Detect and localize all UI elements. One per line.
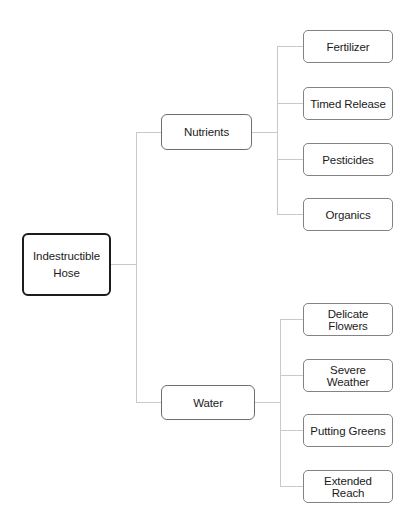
node-leaf-delicate-flowers[interactable]: Delicate Flowers (303, 303, 393, 336)
connector-bus-to-putting-greens (280, 430, 303, 431)
node-branch-nutrients[interactable]: Nutrients (161, 114, 252, 150)
node-leaf-putting-greens-label: Putting Greens (304, 425, 392, 437)
node-leaf-timed-release[interactable]: Timed Release (303, 87, 393, 120)
node-leaf-delicate-flowers-label: Delicate Flowers (304, 308, 392, 332)
node-leaf-severe-weather[interactable]: Severe Weather (303, 359, 393, 392)
connector-nutrients-bus-vertical (277, 46, 278, 214)
node-leaf-timed-release-label: Timed Release (304, 98, 392, 110)
connector-bus-to-timed-release (277, 103, 303, 104)
node-branch-water-label: Water (162, 397, 254, 409)
node-leaf-putting-greens[interactable]: Putting Greens (303, 414, 393, 447)
node-root-indestructible-hose[interactable]: Indestructible Hose (22, 233, 111, 296)
connector-bus-to-extended-reach (280, 486, 303, 487)
node-branch-water[interactable]: Water (161, 385, 255, 420)
node-root-label: Indestructible Hose (24, 248, 109, 282)
connector-trunk-to-water (136, 402, 161, 403)
node-leaf-pesticides[interactable]: Pesticides (303, 143, 393, 176)
connector-bus-to-fertilizer (277, 46, 303, 47)
connector-bus-to-pesticides (277, 159, 303, 160)
node-root-label-line1: Indestructible (33, 250, 100, 262)
connector-water-bus-vertical (280, 319, 281, 486)
connector-root-to-trunk (110, 264, 136, 265)
connector-nutrients-to-bus (252, 132, 278, 133)
node-leaf-pesticides-label: Pesticides (304, 154, 392, 166)
connector-bus-to-severe-weather (280, 375, 303, 376)
node-leaf-fertilizer-label: Fertilizer (304, 41, 392, 53)
node-root-label-line2: Hose (53, 267, 79, 279)
node-branch-nutrients-label: Nutrients (162, 126, 251, 138)
connector-bus-to-delicate-flowers (280, 319, 303, 320)
tree-diagram-canvas: Indestructible Hose Nutrients Water Fert… (0, 0, 416, 527)
connector-water-to-bus (255, 402, 281, 403)
connector-trunk-to-nutrients (136, 132, 161, 133)
node-leaf-organics[interactable]: Organics (303, 198, 393, 231)
node-leaf-severe-weather-label: Severe Weather (304, 364, 392, 388)
connector-bus-to-organics (277, 214, 303, 215)
node-leaf-organics-label: Organics (304, 209, 392, 221)
node-leaf-extended-reach-label: Extended Reach (304, 475, 392, 499)
connector-trunk-vertical (136, 132, 137, 403)
node-leaf-extended-reach[interactable]: Extended Reach (303, 470, 393, 503)
node-leaf-fertilizer[interactable]: Fertilizer (303, 30, 393, 63)
